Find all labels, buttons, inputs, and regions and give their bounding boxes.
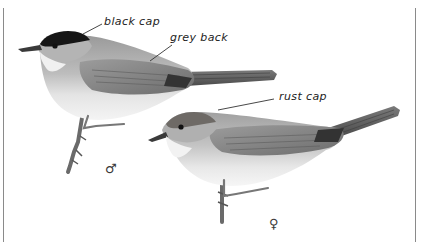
male-beak [18,45,42,52]
label-rust-cap: rust cap [279,91,327,102]
female-symbol: ♀ [269,217,279,230]
black-cap-leader-line [83,24,102,34]
male-eye [52,43,57,48]
female-beak [148,132,168,142]
rust-cap-leader-line [218,99,274,110]
male-perch [68,118,82,172]
female-eye [178,124,183,129]
label-black-cap: black cap [104,16,160,27]
illustration-page: black cap grey back rust cap ♂ ♀ [0,0,422,242]
female-blackcap [148,106,400,222]
male-symbol: ♂ [105,162,117,175]
label-grey-back: grey back [170,32,228,43]
